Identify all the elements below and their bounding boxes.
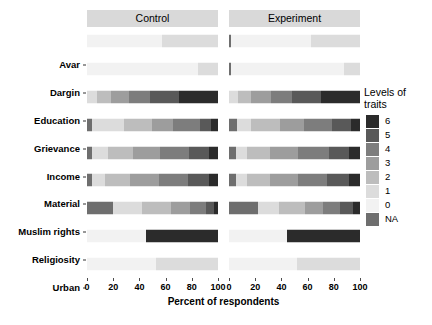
bar-segment: [251, 118, 280, 131]
bar-segment: [258, 202, 279, 215]
bar-segment: [340, 202, 353, 215]
bar-segment: [133, 146, 161, 159]
facet-strip-control: Control: [87, 10, 218, 27]
bar-segment: [92, 118, 123, 131]
bar-segment: [105, 174, 130, 187]
bar-segment: [229, 118, 237, 131]
bar-row: [229, 118, 360, 131]
legend-key-label: 3: [385, 158, 390, 168]
bar-row: [87, 146, 218, 159]
bar-segment: [209, 174, 218, 187]
plot-area-control: [87, 27, 218, 278]
bar-segment: [190, 202, 206, 215]
y-axis-tick: [83, 176, 86, 177]
legend-key-label: 6: [385, 116, 390, 126]
x-axis-tick-label: 60: [303, 282, 313, 292]
bar-segment: [247, 174, 269, 187]
bar-row: [87, 34, 218, 47]
legend-key-label: 4: [385, 144, 390, 154]
bar-segment: [279, 202, 305, 215]
bar-segment: [87, 230, 146, 243]
bar-segment: [150, 90, 179, 103]
x-axis-tick: [218, 278, 219, 281]
y-axis-label: Muslim rights: [18, 227, 80, 237]
x-axis-tick-label: 100: [210, 282, 225, 292]
bar-segment: [173, 118, 199, 131]
bar-segment: [231, 34, 311, 47]
bar-segment: [152, 118, 173, 131]
bar-row: [87, 90, 218, 103]
y-axis-tick: [83, 260, 86, 261]
bar-segment: [200, 118, 212, 131]
y-axis-label: Grievance: [34, 144, 80, 154]
bar-segment: [270, 174, 299, 187]
legend-items: 6543210NA: [366, 114, 432, 226]
y-axis-tick: [83, 92, 86, 93]
bar-segment: [247, 146, 269, 159]
legend-title-line-2: traits: [364, 98, 426, 110]
legend-key-label: 2: [385, 172, 390, 182]
legend-item[interactable]: 1: [366, 184, 432, 198]
legend-item[interactable]: 4: [366, 142, 432, 156]
bar-segment: [92, 174, 105, 187]
bar-segment: [236, 174, 248, 187]
bar-segment: [332, 118, 350, 131]
y-axis-label: Urban: [53, 283, 80, 293]
bar-row: [229, 202, 360, 215]
bar-segment: [270, 146, 299, 159]
bar-segment: [214, 202, 218, 215]
bar-row: [229, 230, 360, 243]
chart-root: AvarDarginEducationGrievanceIncomeMateri…: [0, 0, 432, 325]
x-axis-tick-label: 20: [108, 282, 118, 292]
bar-segment: [280, 118, 304, 131]
bar-segment: [188, 174, 209, 187]
bar-segment: [111, 90, 129, 103]
bar-row: [229, 146, 360, 159]
x-axis-tick: [139, 278, 140, 281]
bar-segment: [236, 146, 248, 159]
bar-segment: [271, 90, 292, 103]
x-axis-tick-label: 60: [161, 282, 171, 292]
legend: Levels of traits 6543210NA: [364, 86, 432, 226]
legend-item[interactable]: 0: [366, 198, 432, 212]
y-axis-tick: [83, 120, 86, 121]
bar-row: [87, 118, 218, 131]
bar-segment: [353, 202, 360, 215]
x-axis-tick-label: 80: [187, 282, 197, 292]
bar-row: [87, 202, 218, 215]
bar-segment: [344, 62, 360, 75]
legend-swatch: [366, 213, 379, 226]
bar-segment: [229, 202, 258, 215]
y-axis-label: Income: [47, 172, 80, 182]
bar-segment: [292, 90, 321, 103]
bar-segment: [130, 174, 159, 187]
bar-segment: [171, 202, 191, 215]
legend-title-line-1: Levels of: [364, 86, 426, 98]
bar-segment: [311, 34, 360, 47]
plot-area-experiment: [229, 27, 360, 278]
bar-segment: [124, 118, 153, 131]
bar-segment: [349, 174, 359, 187]
bar-segment: [327, 174, 349, 187]
x-axis-tick: [281, 278, 282, 281]
legend-item[interactable]: 5: [366, 128, 432, 142]
bar-row: [87, 174, 218, 187]
bar-segment: [146, 230, 218, 243]
facet-strip-label-experiment: Experiment: [268, 13, 321, 24]
legend-item[interactable]: 6: [366, 114, 432, 128]
bar-row: [87, 258, 218, 271]
bar-segment: [159, 174, 188, 187]
legend-item[interactable]: 3: [366, 156, 432, 170]
legend-swatch: [366, 199, 379, 212]
bar-row: [229, 258, 360, 271]
x-axis-tick: [334, 278, 335, 281]
bar-segment: [189, 146, 209, 159]
legend-item[interactable]: NA: [366, 212, 432, 226]
bar-segment: [113, 202, 142, 215]
x-axis-tick-label: 100: [352, 282, 367, 292]
bar-segment: [349, 146, 359, 159]
y-axis-tick: [83, 64, 86, 65]
bar-segment: [238, 90, 251, 103]
legend-title: Levels of traits: [364, 86, 426, 110]
legend-item[interactable]: 2: [366, 170, 432, 184]
